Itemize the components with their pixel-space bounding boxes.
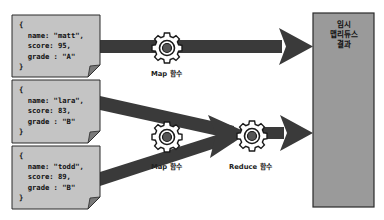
document-json: { name: "matt", score: 95, grade : "A" } <box>19 20 84 73</box>
map-function-label-bottom: Map 함수 <box>151 161 182 171</box>
document-json: { name: "todd", score: 89, grade : "B" } <box>19 151 84 204</box>
result-label-line3: 결과 <box>313 40 375 50</box>
result-label-line2: 맵리듀스 <box>313 30 375 40</box>
top-arrow <box>100 28 313 65</box>
result-label: 임시 맵리듀스 결과 <box>313 20 375 50</box>
document-matt: { name: "matt", score: 95, grade : "A" } <box>12 15 100 77</box>
document-json: { name: "lara", score: 83, grade : "B" } <box>19 85 84 138</box>
reduce-gear-icon <box>237 121 267 151</box>
map-function-label-top: Map 함수 <box>151 68 182 78</box>
document-todd: { name: "todd", score: 89, grade : "B" } <box>12 146 100 208</box>
document-lara: { name: "lara", score: 83, grade : "B" } <box>12 80 100 142</box>
reduce-function-label: Reduce 함수 <box>229 161 272 171</box>
map-gear-icon-bottom <box>152 122 182 152</box>
map-gear-icon-top <box>152 33 182 63</box>
result-label-line1: 임시 <box>313 20 375 30</box>
